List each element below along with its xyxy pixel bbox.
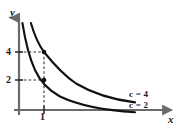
x-tick-label-1: 1: [40, 112, 45, 122]
y-tick-label-4: 4: [6, 47, 11, 57]
chart-plot-area: [0, 0, 182, 129]
curve-label-c2: c = 2: [129, 101, 148, 110]
curve-label-c4: c = 4: [129, 90, 148, 99]
y-axis-label: y: [10, 7, 15, 18]
data-point-marker-c2: [42, 78, 47, 83]
x-axis-label: x: [168, 114, 174, 125]
chart-figure: y x 4 2 1 c = 4 c = 2: [0, 0, 182, 129]
curve-c4: [31, 23, 135, 102]
data-point-marker-c4: [42, 50, 47, 55]
y-tick-label-2: 2: [6, 75, 11, 85]
